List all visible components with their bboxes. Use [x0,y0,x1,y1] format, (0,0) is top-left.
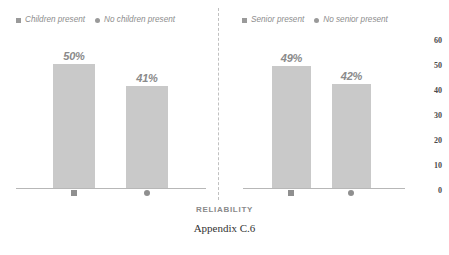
y-axis-tick: 60 [434,36,442,45]
bar-no-senior-present: 42% [332,84,371,188]
bar-fill [53,64,95,188]
y-axis-tick: 40 [434,86,442,95]
legend-item-children-present: Children present [16,16,85,24]
bar-fill [332,84,371,188]
legend-item-no-senior-present: No senior present [314,16,388,24]
legend-item-no-children-present: No children present [95,16,175,24]
bar-children-present: 50% [53,64,95,188]
bar-no-children-present: 41% [126,86,168,188]
circle-marker-icon [95,18,100,23]
y-axis-tick: 20 [434,136,442,145]
legend-left: Children present No children present [16,16,175,24]
panel-divider [218,8,219,200]
square-marker-icon [242,18,247,23]
chart-panel-senior: 49% 42% [243,40,405,190]
legend-label: Senior present [251,16,304,24]
category-marker-circle-right [348,190,354,196]
category-marker-square-left [71,190,77,196]
category-marker-circle-left [144,190,150,196]
y-axis-tick: 50 [434,61,442,70]
bar-value-label: 42% [341,70,362,82]
bar-senior-present: 49% [272,66,311,188]
chart-panel-children: 50% 41% [16,40,206,190]
bar-fill [126,86,168,188]
bar-value-label: 50% [63,50,84,62]
x-axis-title: RELIABILITY [0,205,449,214]
y-axis-tick: 10 [434,161,442,170]
category-marker-square-right [288,190,294,196]
plot-area-right: 49% 42% [243,40,405,189]
y-axis: 60 50 40 30 20 10 0 [418,40,442,190]
figure-caption: Appendix C.6 [0,222,449,234]
bar-fill [272,66,311,188]
bar-value-label: 41% [136,72,157,84]
legend-label: Children present [25,16,85,24]
plot-area-left: 50% 41% [16,40,206,189]
y-axis-tick: 30 [434,111,442,120]
axis-baseline-right [243,188,405,189]
legend-item-senior-present: Senior present [242,16,304,24]
legend-right: Senior present No senior present [242,16,388,24]
square-marker-icon [16,18,21,23]
y-axis-tick: 0 [438,186,442,195]
axis-baseline-left [16,188,206,189]
circle-marker-icon [314,18,319,23]
legend-label: No children present [104,16,175,24]
legend-label: No senior present [323,16,388,24]
bar-value-label: 49% [281,52,302,64]
